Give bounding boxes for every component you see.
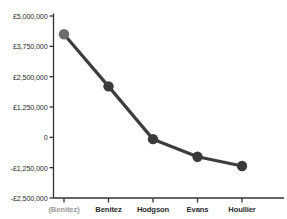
y-axis-tick-label: £1,250,000	[13, 103, 47, 112]
chart-series	[59, 29, 247, 171]
series-data-point	[59, 29, 69, 39]
y-axis-tick-label: £3,750,000	[13, 42, 47, 51]
chart-axes	[50, 14, 285, 203]
series-data-point	[192, 152, 202, 162]
x-axis-tick-label: Benitez	[95, 205, 121, 214]
series-line	[64, 34, 242, 166]
x-axis-tick-label: Hodgson	[137, 205, 169, 214]
series-data-point	[237, 161, 247, 171]
y-axis-tick-label: £5,000,000	[13, 12, 47, 21]
x-axis-tick-label: Evans	[187, 205, 209, 214]
y-axis-tick-label: 0	[44, 133, 48, 142]
y-axis-tick-label: -£1,250,000	[11, 163, 48, 172]
x-axis-tick-label: Houllier	[228, 205, 255, 214]
series-data-point	[148, 134, 158, 144]
series-data-point	[103, 81, 113, 91]
y-axis-tick-label: -£2,500,000	[11, 194, 48, 203]
line-chart: £5,000,000£3,750,000£2,500,000£1,250,000…	[0, 0, 287, 219]
y-axis-tick-label: £2,500,000	[13, 72, 47, 81]
x-axis-tick-label: (Benitez)	[48, 205, 79, 214]
